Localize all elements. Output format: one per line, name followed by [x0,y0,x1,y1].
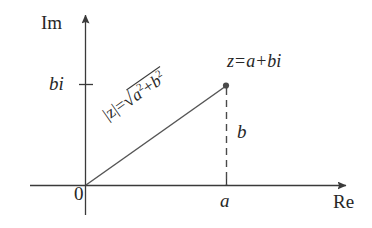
imaginary-axis-label: Im [41,13,62,32]
origin-label: 0 [74,184,84,203]
point-label-z-equals-a-plus-bi: z=a+bi [227,52,281,70]
point-label-a-symbol: a [246,51,255,71]
imaginary-part-label-b: b [237,122,247,141]
point-label-equals: = [234,51,246,71]
x-axis-tick-label-a: a [220,191,230,210]
y-axis-tick-label-bi: bi [49,74,64,93]
point-z-marker [223,82,229,88]
point-label-bi-symbol: bi [267,51,281,71]
real-axis-label: Re [333,192,354,211]
diagram-canvas [0,0,372,228]
complex-plane-diagram: Im Re bi 0 a b z=a+bi |z|=√a2+b2 [0,0,372,228]
point-label-plus: + [255,51,267,71]
point-label-z-symbol: z [227,51,234,71]
